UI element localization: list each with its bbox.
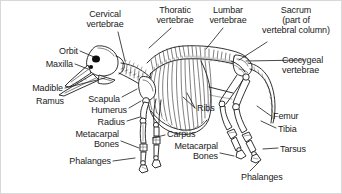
label-carpus: Carpus [167,129,219,139]
flank-line [209,87,233,93]
leader-phalanges-front [113,158,135,161]
leader-thoratic [149,28,171,48]
label-femur: Femur [273,111,323,121]
label-sacrum: Sacrum (part of vertebral column) [251,5,341,35]
label-metacarpal-bones-front: Metacarpal Bones [45,129,119,149]
flank-line-2 [210,95,232,99]
label-scapula: Scapula [64,94,120,104]
leader-tarsus [263,148,278,149]
leader-lumbar [206,28,223,49]
label-orbit: Orbit [28,46,78,56]
leader-cervical [118,32,125,61]
label-tarsus: Tarsus [280,144,330,154]
label-cervical-vertebrae: Cervical vertebrae [65,9,145,29]
leader-metacarpal-front [121,141,139,148]
label-phalanges-front: Phalanges [45,156,111,166]
leader-sacrum [239,42,267,60]
label-coccygeal-vertebrae: Coccygeal vertebrae [282,55,342,75]
label-ribs: Ribs [197,103,237,113]
label-madible: Madible [5,83,63,93]
leader-humerus [129,101,141,108]
label-humerus: Humerus [63,105,127,115]
label-maxilla: Maxilla [15,59,73,69]
label-metacarpal-bones-hind: Metacarpal Bones [146,141,218,161]
leader-femur [257,106,271,116]
label-tibia: Tibia [278,124,322,134]
leader-tibia [261,121,276,128]
vertebral-column-group [147,46,252,76]
leader-phalanges-hind [250,162,259,171]
label-phalanges-hind: Phalanges [241,172,307,182]
leader-ribs [183,97,195,108]
leader-metacarpal-hind [220,153,234,156]
leader-radius [127,117,140,121]
leader-scapula [122,89,137,97]
label-radius: Radius [73,117,125,127]
skeleton-diagram-figure: .o { fill:none; stroke:#1a1a1a; stroke-w… [0,0,342,194]
label-ramus: Ramus [14,96,64,106]
coccygeal-vertebrae-group [248,63,275,123]
